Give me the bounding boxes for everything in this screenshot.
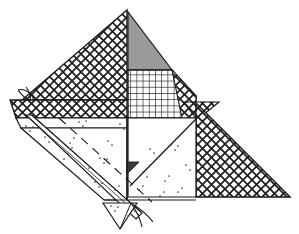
stipple-dot — [101, 182, 103, 184]
stipple-dot — [82, 125, 84, 127]
stipple-dot — [73, 137, 75, 139]
stipple-dot — [63, 158, 65, 160]
stipple-dot — [153, 152, 155, 154]
stipple-dot — [114, 189, 116, 191]
stipple-dot — [189, 169, 191, 171]
stipple-dot — [44, 136, 46, 138]
stipple-dot — [185, 164, 187, 166]
stipple-dot — [118, 185, 120, 187]
geometric-figure-svg: Geometric hatched polygon line drawing — [0, 0, 299, 234]
stipple-dot — [164, 180, 166, 182]
stipple-dot — [181, 187, 183, 189]
stipple-dot — [149, 148, 151, 150]
stipple-dot — [98, 186, 100, 188]
stipple-dot — [159, 195, 161, 197]
stipple-dot — [25, 125, 27, 127]
stipple-dot — [142, 185, 144, 187]
stipple-dot — [110, 205, 112, 207]
stipple-dot — [85, 120, 87, 122]
stipple-dot — [177, 191, 179, 193]
stipple-dot — [78, 121, 80, 123]
stipple-dot — [106, 158, 108, 160]
stipple-dot — [103, 162, 105, 164]
stipple-dot — [123, 128, 125, 130]
stipple-dot — [94, 181, 96, 183]
stipple-dot — [69, 142, 71, 144]
stipple-dot — [114, 210, 116, 212]
stipple-dot — [119, 123, 121, 125]
stipple-dot — [168, 175, 170, 177]
stipple-dot — [170, 144, 172, 146]
stipple-dot — [107, 140, 109, 142]
stipple-dot — [88, 167, 90, 169]
stipple-dot — [32, 126, 34, 128]
stipple-dot — [163, 191, 165, 193]
stipple-dot — [138, 189, 140, 191]
stipple-dot — [29, 130, 31, 132]
stipple-dot — [146, 176, 148, 178]
stipple-dot — [48, 141, 50, 143]
stipple-dot — [71, 147, 73, 149]
stipple-dot — [67, 153, 69, 155]
stipple-dot — [177, 145, 179, 147]
stipple-dot — [99, 157, 101, 159]
figure-root: Geometric hatched polygon line drawing — [0, 0, 299, 234]
stipple-dot — [111, 144, 113, 146]
stipple-dot — [117, 206, 119, 208]
stipple-dot — [174, 149, 176, 151]
stipple-dot — [142, 171, 144, 173]
